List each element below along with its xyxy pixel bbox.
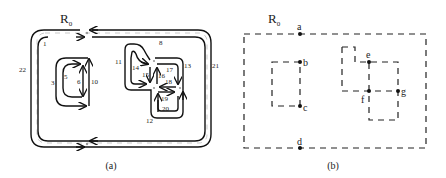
edge-label-1: 1 — [43, 40, 47, 48]
edge-label-12: 12 — [146, 117, 154, 125]
figure-canvas: R0 1 3 5 — [0, 0, 446, 178]
edge-label-3: 3 — [51, 79, 55, 87]
edge-label-5: 5 — [64, 73, 68, 81]
node-label-b: b — [303, 57, 308, 68]
edge-label-10: 10 — [91, 78, 99, 86]
node-f-a — [153, 87, 155, 89]
node-a — [298, 32, 302, 36]
inner-left-rect — [272, 62, 300, 106]
outer-loop-curve — [31, 30, 211, 147]
edge-label-17: 17 — [166, 66, 174, 74]
caption-a: (a) — [105, 160, 116, 172]
arrow-14-in — [141, 62, 148, 64]
node-b — [298, 60, 302, 64]
edge-label-14: 14 — [132, 64, 140, 72]
edge-label-20: 20 — [162, 105, 170, 113]
edge-label-22: 22 — [19, 66, 27, 74]
panel-b: R0 a b c d e f g (b) — [244, 11, 426, 172]
node-label-f: f — [361, 94, 365, 105]
loop-11-12-13-curve — [125, 44, 183, 118]
node-bottom-a — [86, 143, 88, 145]
edge-label-18: 18 — [165, 78, 173, 86]
node-g — [396, 89, 400, 93]
edge-label-8: 8 — [159, 39, 163, 47]
edge-label-19: 19 — [161, 95, 169, 103]
panel-a: R0 1 3 5 — [19, 11, 220, 172]
node-label-e: e — [366, 49, 371, 60]
edge-label-15: 15 — [142, 71, 150, 79]
node-g-a — [179, 87, 181, 89]
caption-b: (b) — [327, 160, 339, 172]
edge-label-11: 11 — [115, 58, 122, 66]
node-c — [298, 104, 302, 108]
node-e-a — [153, 60, 155, 62]
node-label-g: g — [401, 86, 406, 97]
node-label-a: a — [297, 21, 302, 32]
node-label-c: c — [303, 102, 308, 113]
edge-label-21: 21 — [212, 62, 220, 70]
edge-label-13: 13 — [184, 62, 192, 70]
node-f — [367, 89, 371, 93]
region-label-b: R0 — [268, 11, 281, 28]
node-top-a — [86, 32, 88, 34]
node-label-d: d — [297, 136, 302, 147]
node-e — [367, 60, 371, 64]
edge-label-6: 6 — [77, 78, 81, 86]
region-label-a: R0 — [60, 11, 73, 28]
